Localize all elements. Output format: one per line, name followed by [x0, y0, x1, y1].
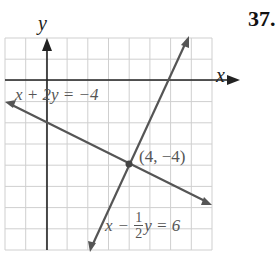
x-axis-label: x	[216, 64, 225, 87]
equation-label-1: x + 2y = −4	[15, 85, 99, 105]
eq2-fraction: 1 2	[134, 210, 143, 241]
graph-figure: 37. y x x + 2y = −4 (4, −4) x − 1 2 y = …	[0, 0, 280, 254]
intersection-label: (4, −4)	[139, 147, 185, 167]
problem-number: 37.	[248, 6, 276, 32]
intersection-point	[126, 161, 133, 168]
eq2-rest: y = 6	[144, 216, 180, 236]
eq2-x: x	[105, 216, 113, 236]
eq2-minus: −	[119, 216, 129, 236]
y-axis-label: y	[38, 12, 47, 35]
arrow-icon	[201, 197, 212, 205]
y-axis-arrow-icon	[42, 38, 52, 51]
x-axis-arrow-icon	[227, 75, 240, 85]
equation-label-2: x − 1 2 y = 6	[105, 210, 180, 241]
eq2-numerator: 1	[135, 210, 142, 225]
eq2-denominator: 2	[135, 226, 142, 241]
